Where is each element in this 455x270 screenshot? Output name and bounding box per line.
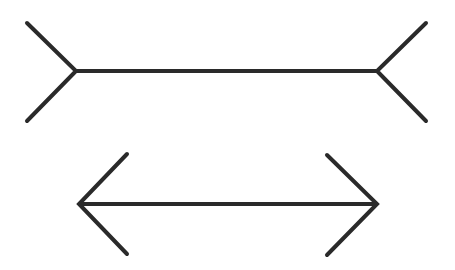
arrowheads-figure <box>79 154 377 255</box>
muller-lyer-diagram <box>0 0 455 270</box>
left-fin <box>27 23 76 121</box>
right-fin <box>377 23 426 121</box>
fins-out-figure <box>27 23 426 121</box>
